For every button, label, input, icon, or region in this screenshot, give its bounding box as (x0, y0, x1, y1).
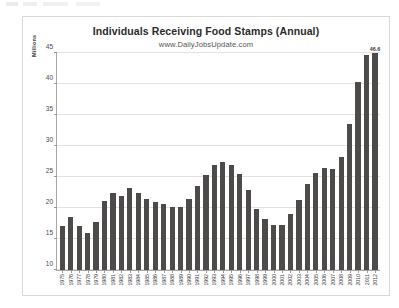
bar-slot: 1994 (219, 53, 227, 270)
bar-slot: 1995 (227, 53, 235, 270)
x-tick-label: 1994 (220, 274, 226, 286)
bar (212, 165, 217, 270)
x-tick-label: 1996 (237, 274, 243, 286)
x-tick-label: 1980 (101, 274, 107, 286)
bar-slot: 2007 (329, 53, 337, 270)
plot-area: Millions 1015202530354045 19751976197719… (56, 53, 380, 271)
x-tick-label: 1995 (228, 274, 234, 286)
bar (161, 204, 166, 270)
bar (178, 207, 183, 270)
x-tick-mark (113, 270, 114, 273)
x-tick-mark (96, 270, 97, 273)
bar-slot: 2006 (320, 53, 328, 270)
x-tick-label: 2010 (355, 274, 361, 286)
x-tick-mark (79, 270, 80, 273)
x-tick-mark (248, 270, 249, 273)
x-tick-label: 1982 (118, 274, 124, 286)
bar (288, 214, 293, 270)
x-tick-label: 1997 (245, 274, 251, 286)
x-tick-mark (333, 270, 334, 273)
bar-slot: 1999 (261, 53, 269, 270)
y-axis-title: Millions (31, 35, 37, 57)
bar (144, 199, 149, 270)
x-tick-label: 1984 (135, 274, 141, 286)
x-tick-label: 1983 (127, 274, 133, 286)
x-tick-label: 1989 (178, 274, 184, 286)
x-tick-mark (181, 270, 182, 273)
x-tick-label: 2002 (287, 274, 293, 286)
bar (237, 174, 242, 270)
bar (77, 226, 82, 270)
bar (355, 82, 360, 270)
bar-slot: 2004 (303, 53, 311, 270)
x-tick-label: 1985 (144, 274, 150, 286)
bar-slot: 1979 (92, 53, 100, 270)
x-tick-label: 1999 (262, 274, 268, 286)
x-tick-label: 1991 (194, 274, 200, 286)
bar-series: 1975197619771978197919801981198219831984… (57, 53, 380, 270)
x-tick-mark (147, 270, 148, 273)
bar-slot: 1993 (210, 53, 218, 270)
x-tick-mark (130, 270, 131, 273)
x-tick-mark (197, 270, 198, 273)
bar (339, 157, 344, 270)
x-tick-label: 1978 (85, 274, 91, 286)
y-tick-label: 30 (46, 136, 53, 143)
x-tick-mark (88, 270, 89, 273)
bar (347, 124, 352, 270)
x-tick-label: 1977 (76, 274, 82, 286)
bar-slot: 1977 (75, 53, 83, 270)
bar-slot: 2008 (337, 53, 345, 270)
bar-slot: 2001 (278, 53, 286, 270)
bar-slot: 1992 (202, 53, 210, 270)
x-tick-label: 1987 (161, 274, 167, 286)
y-tick-label: 40 (46, 74, 53, 81)
x-tick-mark (104, 270, 105, 273)
x-tick-mark (223, 270, 224, 273)
x-tick-mark (121, 270, 122, 273)
bar (119, 196, 124, 270)
x-tick-mark (62, 270, 63, 273)
x-tick-label: 1975 (59, 274, 65, 286)
bar-slot: 2003 (295, 53, 303, 270)
y-tick-label: 10 (46, 260, 53, 267)
x-tick-mark (290, 270, 291, 273)
bar-slot: 1982 (117, 53, 125, 270)
bar (186, 199, 191, 270)
x-tick-mark (358, 270, 359, 273)
x-tick-mark (71, 270, 72, 273)
x-tick-label: 2008 (338, 274, 344, 286)
bar-slot: 1998 (252, 53, 260, 270)
x-tick-mark (206, 270, 207, 273)
bar (254, 209, 259, 270)
bar-slot: 2000 (269, 53, 277, 270)
x-tick-mark (282, 270, 283, 273)
bar (127, 188, 132, 270)
x-tick-mark (274, 270, 275, 273)
bar-slot: 1990 (185, 53, 193, 270)
x-tick-mark (240, 270, 241, 273)
bar-slot: 1986 (151, 53, 159, 270)
x-tick-label: 1992 (203, 274, 209, 286)
bar-slot: 2011 (362, 53, 370, 270)
chart-subtitle: www.DailyJobsUpdate.com (23, 40, 389, 49)
y-tick-label: 45 (46, 43, 53, 50)
x-tick-mark (155, 270, 156, 273)
bar (110, 193, 115, 270)
bar (246, 190, 251, 270)
x-tick-label: 2004 (304, 274, 310, 286)
chart-title: Individuals Receiving Food Stamps (Annua… (23, 25, 389, 37)
bar-slot: 1980 (100, 53, 108, 270)
bar-slot: 1991 (193, 53, 201, 270)
bar (220, 162, 225, 271)
x-tick-mark (189, 270, 190, 273)
bar-slot: 1988 (168, 53, 176, 270)
bar (153, 202, 158, 270)
bar-value-label: 46.6 (370, 46, 381, 52)
bar (305, 184, 310, 270)
x-tick-label: 1990 (186, 274, 192, 286)
bar (102, 201, 107, 270)
bar-slot: 2009 (345, 53, 353, 270)
bar-slot: 1981 (109, 53, 117, 270)
bar (279, 225, 284, 270)
